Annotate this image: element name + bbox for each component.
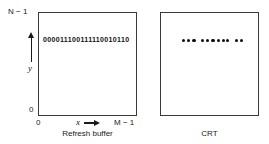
crt-pixel-dot	[240, 39, 243, 42]
crt-pixel-dot	[201, 39, 204, 42]
crt-pixel-dot	[182, 39, 185, 42]
arrow-shaft	[31, 36, 32, 62]
crt-pixel-dot	[217, 39, 220, 42]
x-axis-name-label: x	[76, 117, 80, 127]
crt-illuminated-pixels	[160, 36, 259, 46]
crt-pixel-dot	[192, 39, 195, 42]
refresh-buffer-caption: Refresh buffer	[38, 129, 137, 139]
crt-caption: CRT	[160, 129, 259, 139]
right-arrow-icon	[84, 119, 100, 127]
up-arrow-icon	[27, 32, 36, 62]
crt-pixel-dot	[226, 39, 229, 42]
y-axis-max-label: N − 1	[8, 7, 27, 16]
arrow-head	[94, 120, 100, 126]
crt-panel	[160, 12, 259, 116]
crt-pixel-dot	[206, 39, 209, 42]
arrow-head	[28, 32, 34, 38]
crt-pixel-dot	[187, 39, 190, 42]
x-axis-min-label: 0	[36, 118, 40, 127]
crt-pixel-dot	[235, 39, 238, 42]
refresh-buffer-crt-figure: 000011100111110010110 N − 1 0 0 M − 1 y …	[0, 0, 269, 144]
crt-pixel-dot	[222, 39, 225, 42]
crt-pixel-dot	[211, 39, 214, 42]
y-axis-min-label: 0	[29, 105, 33, 114]
refresh-buffer-panel	[38, 12, 137, 116]
y-axis-name-label: y	[28, 63, 32, 73]
refresh-buffer-bit-string: 000011100111110010110	[43, 35, 135, 44]
x-axis-max-label: M − 1	[114, 118, 134, 127]
